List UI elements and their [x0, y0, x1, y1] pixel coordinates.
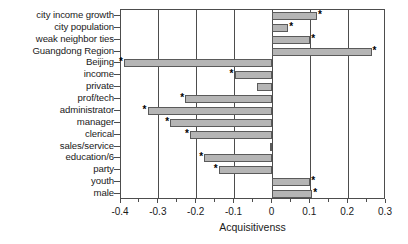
category-label-administrator: administrator [0, 105, 114, 115]
bar-city-income-growth [272, 12, 317, 20]
bar-beijing [124, 59, 272, 67]
x-axis-tick-label: -0.2 [176, 206, 216, 218]
bar-manager [170, 119, 272, 127]
y-axis-tick [114, 39, 121, 40]
gridline-x--0_3 [158, 10, 159, 198]
category-label-prof-tech: prof/tech [0, 93, 114, 103]
bar-city-population [272, 24, 288, 32]
category-label-sales-service: sales/service [0, 141, 114, 151]
category-label-income: income [0, 69, 114, 79]
category-label-city-income-growth: city income growth [0, 10, 114, 20]
category-label-education-6: education/6 [0, 152, 114, 162]
category-label-guangdong-region: Guangdong Region [0, 46, 114, 56]
significance-marker: * [373, 47, 377, 55]
bar-private [257, 83, 272, 91]
y-axis-tick [114, 193, 121, 194]
x-axis-tick [385, 199, 386, 203]
bar-youth [272, 178, 310, 186]
acquisitiveness-bar-chart: city income growthcity populationweak ne… [0, 0, 408, 244]
x-axis-tick [271, 199, 272, 203]
y-axis-tick [114, 27, 121, 28]
gridline-x--0_2 [196, 10, 197, 198]
category-label-party: party [0, 164, 114, 174]
x-axis-tick [309, 199, 310, 203]
x-axis-tick-label: -0.1 [214, 206, 254, 218]
x-axis-tick [233, 199, 234, 203]
y-axis-tick [114, 169, 121, 170]
x-axis-minor-tick [290, 199, 291, 202]
significance-marker: * [143, 106, 147, 114]
significance-marker: * [165, 118, 169, 126]
bar-weak-neighbor-ties [272, 36, 310, 44]
y-axis-tick [114, 51, 121, 52]
bar-clerical [190, 131, 273, 139]
significance-marker: * [318, 11, 322, 19]
plot-area: ************** [120, 9, 385, 199]
category-axis-labels: city income growthcity populationweak ne… [0, 9, 114, 199]
category-label-private: private [0, 81, 114, 91]
category-label-beijing: Beijing [0, 57, 114, 67]
y-axis-tick [114, 62, 121, 63]
category-label-city-population: city population [0, 22, 114, 32]
y-axis-tick [114, 74, 121, 75]
x-axis-tick [347, 199, 348, 203]
x-axis-tick-label: 0.3 [365, 206, 405, 218]
y-axis-tick [114, 181, 121, 182]
y-axis-tick [114, 134, 121, 135]
category-label-male: male [0, 188, 114, 198]
x-axis-title: Acquisitivenss [120, 221, 385, 233]
x-axis-minor-tick [214, 199, 215, 202]
x-axis-tick-label: -0.4 [100, 206, 140, 218]
y-axis-tick [114, 110, 121, 111]
significance-marker: * [199, 153, 203, 161]
y-axis-tick [114, 86, 121, 87]
y-axis-tick [114, 146, 121, 147]
x-axis-minor-tick [252, 199, 253, 202]
y-axis-tick [114, 157, 121, 158]
bar-male [272, 190, 312, 198]
significance-marker: * [289, 23, 293, 31]
bar-sales-service [270, 143, 273, 151]
significance-marker: * [230, 70, 234, 78]
bar-guangdong-region [272, 48, 371, 56]
bar-income [235, 71, 273, 79]
x-axis-tick-label: -0.3 [138, 206, 178, 218]
x-axis-minor-tick [138, 199, 139, 202]
y-axis-tick [114, 98, 121, 99]
significance-marker: * [214, 165, 218, 173]
significance-marker: * [311, 35, 315, 43]
significance-marker: * [180, 94, 184, 102]
category-label-weak-neighbor-ties: weak neighbor ties [0, 34, 114, 44]
gridline-x-0_2 [348, 10, 349, 198]
bar-education-6 [204, 154, 272, 162]
x-axis-tick-label: 0.1 [289, 206, 329, 218]
x-axis-tick [195, 199, 196, 203]
x-axis-minor-tick [176, 199, 177, 202]
bar-administrator [148, 107, 273, 115]
x-axis-tick-label: 0.2 [327, 206, 367, 218]
category-label-clerical: clerical [0, 129, 114, 139]
bar-prof-tech [185, 95, 272, 103]
x-axis-tick [120, 199, 121, 203]
y-axis-tick [114, 15, 121, 16]
x-axis-minor-tick [328, 199, 329, 202]
x-axis-minor-tick [366, 199, 367, 202]
category-label-youth: youth [0, 176, 114, 186]
significance-marker: * [311, 177, 315, 185]
x-axis-tick-label: 0 [251, 206, 291, 218]
bar-party [219, 166, 273, 174]
x-axis-tick [157, 199, 158, 203]
significance-marker: * [313, 189, 317, 197]
significance-marker: * [185, 130, 189, 138]
category-label-manager: manager [0, 117, 114, 127]
y-axis-tick [114, 122, 121, 123]
